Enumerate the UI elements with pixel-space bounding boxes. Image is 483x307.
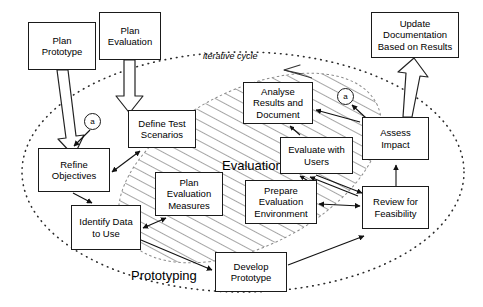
node-prepare-evaluation-environment[interactable]: Prepare Evaluation Environment xyxy=(245,180,317,224)
zone-label-prototyping: Prototyping xyxy=(131,268,197,283)
node-evaluate-with-users-label: Evaluate with Users xyxy=(288,144,345,167)
arrow-develop-prototype-to-review xyxy=(288,236,364,265)
node-evaluate-with-users[interactable]: Evaluate with Users xyxy=(280,137,353,174)
node-review-for-feasibility-label: Review for Feasibility xyxy=(373,196,418,219)
node-prepare-evaluation-environment-label: Prepare Evaluation Environment xyxy=(254,185,307,220)
node-update-documentation-label: Update Documentation Based on Results xyxy=(378,18,452,53)
node-assess-impact-label: Assess Impact xyxy=(380,127,411,150)
node-define-test-scenarios[interactable]: Define Test Scenarios xyxy=(128,110,196,148)
node-update-documentation[interactable]: Update Documentation Based on Results xyxy=(371,12,459,58)
diagram-canvas: Evaluation Prototyping iterative cycle a… xyxy=(0,0,483,307)
node-identify-data-label: Identify Data to Use xyxy=(79,216,132,239)
connector-a-left[interactable]: a xyxy=(84,113,101,130)
node-develop-prototype-label: Develop Prototype xyxy=(231,261,272,284)
connector-a-right-label: a xyxy=(343,92,347,101)
block-arrow-plan-evaluation-to-define-test xyxy=(116,60,143,113)
node-plan-prototype-label: Plan Prototype xyxy=(42,35,83,58)
iterative-cycle-label: iterative cycle xyxy=(203,51,258,61)
node-plan-evaluation-measures[interactable]: Plan Evaluation Measures xyxy=(155,172,223,216)
zone-label-evaluation: Evaluation xyxy=(222,158,283,173)
block-arrow-plan-prototype-to-refine xyxy=(57,70,84,156)
node-refine-objectives-label: Refine Objectives xyxy=(52,159,96,182)
node-define-test-scenarios-label: Define Test Scenarios xyxy=(138,118,185,141)
node-analyse-results-label: Analyse Results and Document xyxy=(253,86,303,121)
arrow-refine-to-identify-data xyxy=(73,193,92,203)
block-arrow-assess-impact-to-update-doc xyxy=(398,58,428,117)
connector-a-right[interactable]: a xyxy=(337,88,354,105)
node-assess-impact[interactable]: Assess Impact xyxy=(362,117,429,160)
node-review-for-feasibility[interactable]: Review for Feasibility xyxy=(362,186,429,229)
connector-a-left-label: a xyxy=(90,117,94,126)
node-analyse-results[interactable]: Analyse Results and Document xyxy=(243,82,313,124)
node-refine-objectives[interactable]: Refine Objectives xyxy=(38,148,110,192)
node-plan-evaluation[interactable]: Plan Evaluation xyxy=(99,12,161,60)
node-plan-evaluation-measures-label: Plan Evaluation Measures xyxy=(167,177,211,212)
node-identify-data[interactable]: Identify Data to Use xyxy=(71,205,141,250)
node-develop-prototype[interactable]: Develop Prototype xyxy=(215,252,287,292)
node-plan-evaluation-label: Plan Evaluation xyxy=(108,25,152,48)
node-plan-prototype[interactable]: Plan Prototype xyxy=(28,22,96,70)
